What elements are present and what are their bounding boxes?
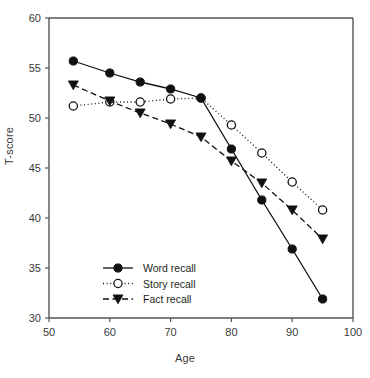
data-point	[135, 109, 145, 118]
legend-label: Story recall	[143, 278, 196, 290]
data-point	[319, 295, 327, 303]
data-point	[136, 98, 144, 106]
data-point	[167, 85, 175, 93]
data-point	[258, 196, 266, 204]
x-tick-label: 80	[225, 326, 237, 338]
data-point	[106, 69, 114, 77]
y-tick-label: 60	[29, 12, 41, 24]
data-point	[319, 206, 327, 214]
legend-label: Fact recall	[143, 293, 191, 305]
data-point	[68, 81, 78, 90]
data-point	[227, 145, 235, 153]
legend-marker-sample	[114, 279, 122, 287]
y-axis-ticks: 30354045505560	[29, 12, 49, 324]
data-point	[288, 178, 296, 186]
y-tick-label: 40	[29, 212, 41, 224]
data-point	[226, 157, 236, 166]
x-axis-ticks: 5060708090100	[43, 318, 362, 338]
data-point	[227, 121, 235, 129]
data-point	[318, 235, 328, 244]
data-point	[197, 94, 205, 102]
data-point	[258, 149, 266, 157]
legend-marker-sample	[114, 264, 122, 272]
data-point	[167, 95, 175, 103]
data-point	[166, 120, 176, 129]
x-tick-label: 60	[104, 326, 116, 338]
y-tick-label: 35	[29, 262, 41, 274]
series-story-recall	[69, 94, 326, 214]
y-tick-label: 30	[29, 312, 41, 324]
x-axis-label: Age	[0, 352, 370, 364]
x-tick-label: 50	[43, 326, 55, 338]
data-point	[288, 245, 296, 253]
x-tick-label: 90	[286, 326, 298, 338]
legend-label: Word recall	[143, 262, 196, 274]
data-point	[69, 102, 77, 110]
data-series-group	[68, 57, 327, 303]
x-tick-label: 70	[164, 326, 176, 338]
chart-container: 30354045505560 5060708090100 Word recall…	[0, 0, 370, 378]
data-point	[136, 78, 144, 86]
y-tick-label: 45	[29, 162, 41, 174]
series-line	[73, 98, 322, 210]
series-line	[73, 85, 322, 239]
chart-legend: Word recallStory recallFact recall	[103, 262, 196, 305]
data-point	[69, 57, 77, 65]
x-tick-label: 100	[344, 326, 362, 338]
y-tick-label: 50	[29, 112, 41, 124]
chart-plot-area: 30354045505560 5060708090100 Word recall…	[0, 0, 370, 378]
y-tick-label: 55	[29, 62, 41, 74]
y-axis-label: T-score	[3, 151, 15, 165]
